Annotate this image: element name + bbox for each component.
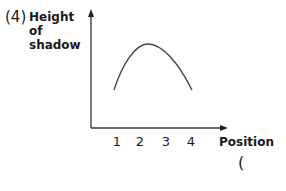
x-tick-3: 3 (162, 134, 170, 149)
x-tick-1: 1 (113, 134, 121, 149)
y-axis-arrow-icon (88, 9, 94, 17)
x-axis-label: Position (219, 135, 274, 149)
shadow-height-curve (114, 44, 192, 90)
x-tick-2: 2 (136, 134, 144, 149)
answer-bracket: ( (238, 153, 244, 172)
x-tick-4: 4 (187, 134, 195, 149)
x-axis-arrow-icon (220, 125, 228, 131)
